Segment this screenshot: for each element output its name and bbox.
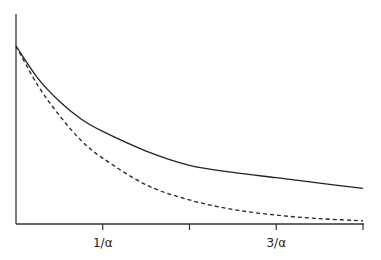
dashed-curve [16, 46, 363, 221]
x-tick-label: 3/α [266, 236, 286, 250]
solid-curve [16, 46, 363, 188]
x-tick-label: 1/α [93, 236, 113, 250]
chart: 1/α3/α [0, 0, 381, 260]
